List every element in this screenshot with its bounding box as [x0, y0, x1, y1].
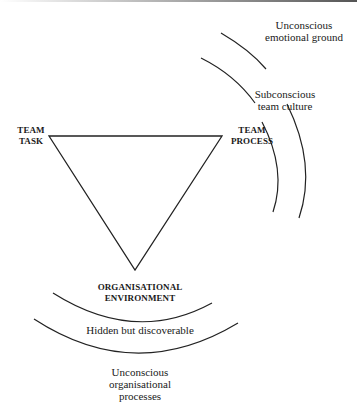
org-environment-line2: ENVIRONMENT — [80, 293, 200, 304]
stc-line2: team culture — [244, 100, 326, 112]
uop-line3: processes — [90, 390, 190, 402]
outer-right-arc-lower — [287, 104, 306, 218]
org-environment-label: ORGANISATIONAL ENVIRONMENT — [80, 282, 200, 304]
hidden-but-discoverable-label: Hidden but discoverable — [75, 324, 205, 336]
org-environment-line1: ORGANISATIONAL — [80, 282, 200, 293]
subconscious-team-culture-label: Subconscious team culture — [244, 88, 326, 112]
team-task-label: TEAM TASK — [13, 125, 49, 147]
team-process-label: TEAM PROCESS — [222, 125, 282, 147]
diagram-canvas — [0, 0, 357, 418]
uop-line2: organisational — [90, 378, 190, 390]
ueg-line2: emotional ground — [252, 31, 356, 43]
unconscious-emotional-ground-label: Unconscious emotional ground — [252, 19, 356, 43]
stc-line1: Subconscious — [244, 88, 326, 100]
team-triangle — [49, 136, 222, 270]
team-process-line2: PROCESS — [222, 136, 282, 147]
ueg-line1: Unconscious — [252, 19, 356, 31]
uop-line1: Unconscious — [90, 366, 190, 378]
team-task-line2: TASK — [13, 136, 49, 147]
team-process-line1: TEAM — [222, 125, 282, 136]
unconscious-org-processes-label: Unconscious organisational processes — [90, 366, 190, 402]
hbd-text: Hidden but discoverable — [75, 324, 205, 336]
team-task-line1: TEAM — [13, 125, 49, 136]
